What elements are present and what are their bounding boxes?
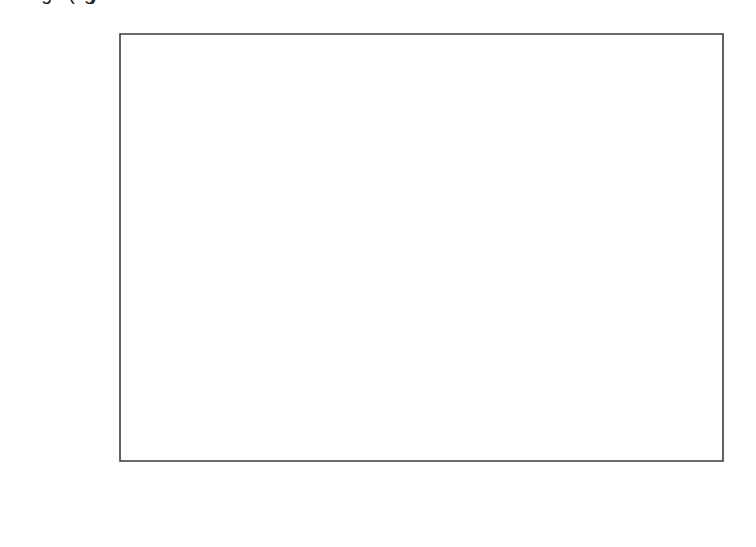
figure-container: Thousands of Years Ago Sea Level Change … bbox=[0, 0, 756, 547]
sea-level-chart: Thousands of Years Ago Sea Level Change … bbox=[0, 0, 756, 547]
chart-background bbox=[0, 0, 756, 547]
mwp1a-annotation-label: Meltwater Pulse 1A bbox=[0, 0, 76, 4]
